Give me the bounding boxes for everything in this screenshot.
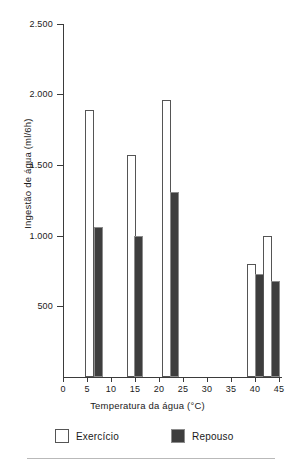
legend-label-exercicio: Exercício	[76, 431, 119, 442]
x-tick-45	[279, 377, 280, 382]
x-tick-label-0: 0	[53, 384, 73, 394]
x-tick-5	[87, 377, 88, 382]
x-tick-0	[63, 377, 64, 382]
y-axis-line	[63, 24, 64, 378]
x-tick-15	[135, 377, 136, 382]
chart-legend: Exercício Repouso	[55, 428, 270, 448]
y-tick-2000	[57, 94, 63, 95]
y-axis-title: Ingestão de água (ml/6h)	[22, 74, 33, 274]
bar-repouso-44.2	[271, 281, 280, 377]
y-tick-1000	[57, 236, 63, 237]
legend-label-repouso: Repouso	[192, 431, 233, 442]
bar-repouso-23.2	[170, 192, 179, 377]
x-axis-title: Temperatura da água (°C)	[0, 400, 295, 411]
x-tick-label-35: 35	[221, 384, 241, 394]
legend-entry-repouso: Repouso	[171, 428, 233, 444]
x-axis-line	[63, 377, 282, 378]
x-tick-label-5: 5	[77, 384, 97, 394]
y-tick-2500	[57, 24, 63, 25]
bar-repouso-7.3	[94, 227, 103, 377]
legend-swatch-white-square-icon	[55, 429, 69, 443]
x-tick-10	[111, 377, 112, 382]
legend-swatch-dark-square-icon	[171, 429, 185, 443]
x-tick-25	[183, 377, 184, 382]
bar-repouso-15.8	[134, 236, 143, 377]
x-tick-label-25: 25	[173, 384, 193, 394]
x-tick-35	[231, 377, 232, 382]
x-tick-label-40: 40	[245, 384, 265, 394]
x-tick-30	[207, 377, 208, 382]
y-tick-label-500: 500	[7, 301, 53, 311]
x-tick-20	[159, 377, 160, 382]
bottom-divider	[27, 458, 275, 459]
legend-entry-exercicio: Exercício	[55, 428, 119, 444]
x-tick-label-45: 45	[269, 384, 289, 394]
x-tick-label-30: 30	[197, 384, 217, 394]
x-tick-label-15: 15	[125, 384, 145, 394]
y-tick-label-2500: 2.500	[7, 19, 53, 29]
x-tick-label-20: 20	[149, 384, 169, 394]
bar-chart-figure: 2.500 2.000 1.500 1.000 500 0 5 10 15 20…	[0, 0, 295, 466]
y-tick-1500	[57, 165, 63, 166]
x-tick-40	[255, 377, 256, 382]
x-tick-label-10: 10	[101, 384, 121, 394]
y-tick-500	[57, 306, 63, 307]
